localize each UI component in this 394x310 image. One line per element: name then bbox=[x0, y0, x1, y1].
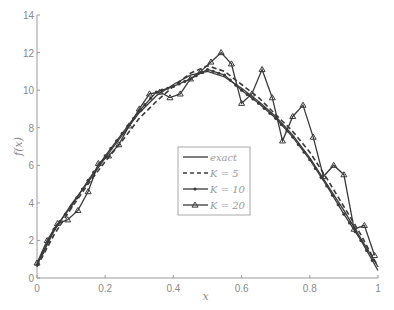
x-tick-label: 0.8 bbox=[303, 283, 317, 294]
dot-marker-icon bbox=[263, 107, 266, 110]
dot-marker-icon bbox=[64, 213, 67, 216]
dot-marker-icon bbox=[70, 205, 73, 208]
dot-marker-icon bbox=[303, 151, 306, 154]
legend: exactK = 5K = 10K = 20 bbox=[178, 147, 250, 215]
dot-marker-icon bbox=[240, 89, 243, 92]
dot-marker-icon bbox=[342, 213, 345, 216]
dot-marker-icon bbox=[143, 103, 146, 106]
y-tick-label: 0 bbox=[28, 273, 34, 284]
legend-entry-label: exact bbox=[210, 152, 238, 163]
dot-marker-icon bbox=[297, 143, 300, 146]
dot-marker-icon bbox=[172, 85, 175, 88]
dot-marker-icon bbox=[193, 187, 196, 190]
dot-marker-icon bbox=[177, 82, 180, 85]
dot-marker-icon bbox=[166, 87, 169, 90]
legend-entry-label: K = 20 bbox=[209, 200, 246, 211]
y-tick-label: 8 bbox=[28, 123, 34, 134]
dot-marker-icon bbox=[149, 97, 152, 100]
x-tick-label: 0 bbox=[34, 283, 40, 294]
y-tick-label: 2 bbox=[28, 235, 34, 246]
x-axis-label: x bbox=[202, 290, 209, 303]
y-axis-label: f(x) bbox=[12, 137, 25, 157]
y-tick-label: 12 bbox=[23, 48, 35, 59]
dot-marker-icon bbox=[331, 194, 334, 197]
dot-marker-icon bbox=[212, 70, 215, 73]
y-tick-label: 6 bbox=[28, 160, 34, 171]
dot-marker-icon bbox=[257, 102, 260, 105]
dot-marker-icon bbox=[246, 93, 249, 96]
dot-marker-icon bbox=[314, 167, 317, 170]
dot-marker-icon bbox=[183, 80, 186, 83]
dot-marker-icon bbox=[365, 249, 368, 252]
legend-entry-label: K = 10 bbox=[209, 184, 246, 195]
dot-marker-icon bbox=[75, 196, 78, 199]
y-tick-label: 4 bbox=[28, 198, 34, 209]
dot-marker-icon bbox=[109, 147, 112, 150]
x-tick-label: 0.2 bbox=[98, 283, 112, 294]
dot-marker-icon bbox=[337, 203, 340, 206]
dot-marker-icon bbox=[359, 239, 362, 242]
dot-marker-icon bbox=[268, 112, 271, 115]
dot-marker-icon bbox=[115, 139, 118, 142]
dot-marker-icon bbox=[217, 72, 220, 75]
x-tick-label: 0.6 bbox=[235, 283, 249, 294]
dot-marker-icon bbox=[229, 79, 232, 82]
chart: 00.20.40.60.8102468101214xf(x) exactK = … bbox=[0, 0, 394, 310]
dot-marker-icon bbox=[206, 68, 209, 71]
y-tick-label: 10 bbox=[23, 85, 35, 96]
dot-marker-icon bbox=[348, 221, 351, 224]
dot-marker-icon bbox=[121, 132, 124, 135]
dot-marker-icon bbox=[223, 74, 226, 77]
x-tick-label: 1 bbox=[375, 283, 381, 294]
dot-marker-icon bbox=[280, 123, 283, 126]
dot-marker-icon bbox=[291, 136, 294, 139]
legend-entry-label: K = 5 bbox=[209, 168, 239, 179]
dot-marker-icon bbox=[371, 259, 374, 262]
dot-marker-icon bbox=[308, 158, 311, 161]
dot-marker-icon bbox=[87, 179, 90, 182]
y-tick-label: 14 bbox=[23, 10, 35, 21]
dot-marker-icon bbox=[325, 184, 328, 187]
x-tick-label: 0.4 bbox=[166, 283, 180, 294]
dot-marker-icon bbox=[81, 187, 84, 190]
dot-marker-icon bbox=[251, 97, 254, 100]
